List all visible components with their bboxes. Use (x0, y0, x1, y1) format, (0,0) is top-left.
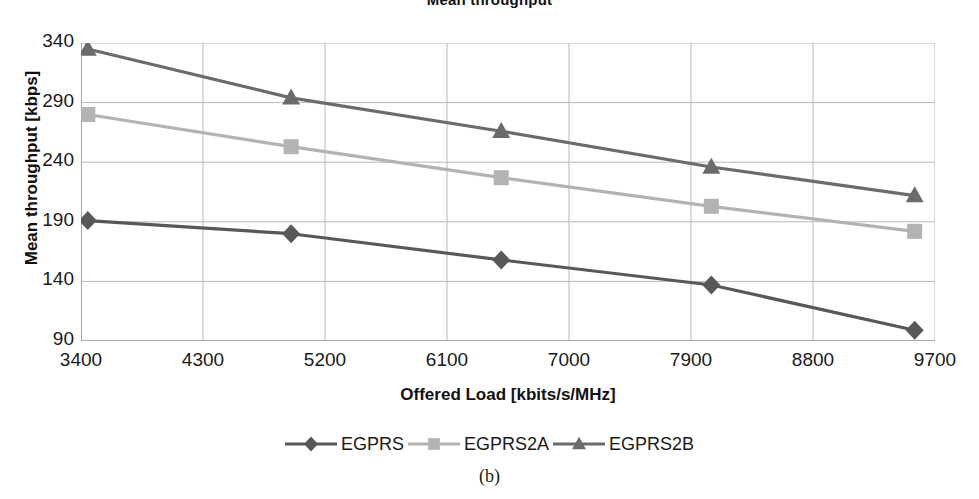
y-tick-label: 340 (14, 30, 74, 52)
x-tick-label: 8800 (768, 349, 858, 371)
x-tick-label: 6100 (402, 349, 492, 371)
legend-label: EGPRS2A (462, 434, 551, 455)
data-point-marker-square (704, 199, 719, 214)
y-tick-label: 290 (14, 90, 74, 112)
data-point-marker-square (81, 107, 95, 122)
data-point-marker-diamond (906, 321, 924, 340)
x-tick-label: 4300 (158, 349, 248, 371)
legend-item-egprs[interactable]: EGPRS (283, 432, 406, 456)
x-tick-label: 9700 (890, 349, 979, 371)
data-point-marker-square (494, 170, 509, 185)
series-line (88, 221, 915, 331)
gridlines (81, 43, 935, 341)
y-tick-label: 140 (14, 268, 74, 290)
figure: Mean throughput Mean throughput [kbps] 9… (0, 0, 979, 499)
legend-swatch-square-icon (406, 432, 462, 456)
data-point-marker-square (284, 139, 299, 154)
chart-legend: EGPRSEGPRS2AEGPRS2B (0, 432, 979, 456)
data-point-marker-diamond (282, 224, 300, 243)
data-point-marker-square (907, 224, 922, 239)
data-point-marker-diamond (81, 211, 97, 230)
data-point-marker-diamond (304, 437, 318, 452)
series-egprs (81, 211, 924, 340)
x-tick-label: 5200 (280, 349, 370, 371)
y-axis-tick-labels: 90140190240290340 (8, 0, 74, 499)
x-axis-tick-labels: 34004300520061007000790088009700 (0, 349, 979, 377)
y-tick-label: 90 (14, 328, 74, 350)
chart-svg (81, 43, 935, 341)
legend-item-egprs2a[interactable]: EGPRS2A (406, 432, 551, 456)
legend-swatch-triangle-icon (551, 432, 607, 456)
data-point-marker-diamond (702, 275, 720, 294)
legend-label: EGPRS2B (607, 434, 696, 455)
legend-swatch-diamond-icon (283, 432, 339, 456)
chart-title: Mean throughput (0, 0, 979, 8)
plot-area (81, 43, 935, 341)
axis-tick-marks (81, 43, 935, 341)
data-point-marker-square (428, 438, 440, 450)
x-tick-label: 3400 (36, 349, 126, 371)
legend-label: EGPRS (339, 434, 406, 455)
data-series-layer (81, 43, 924, 340)
x-axis-title: Offered Load [kbits/s/MHz] (81, 385, 935, 405)
x-tick-label: 7900 (646, 349, 736, 371)
axis-lines (81, 43, 935, 341)
y-tick-label: 240 (14, 149, 74, 171)
figure-caption: (b) (0, 466, 979, 487)
data-point-marker-diamond (492, 250, 510, 269)
y-tick-label: 190 (14, 209, 74, 231)
x-tick-label: 7000 (524, 349, 614, 371)
legend-item-egprs2b[interactable]: EGPRS2B (551, 432, 696, 456)
